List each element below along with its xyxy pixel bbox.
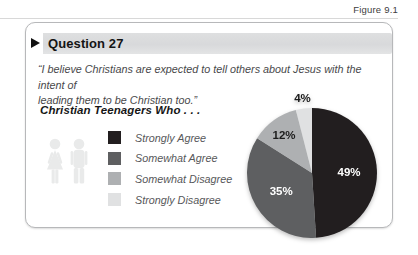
figure-label: Figure 9.1 [353,4,398,15]
legend-label: Somewhat Disagree [135,173,232,185]
legend-swatch [108,131,121,144]
bullet-arrow-icon [31,38,40,48]
pie-chart: 49%35%12%4% [230,86,396,252]
top-rule-divider [0,18,398,19]
legend-swatch [108,193,121,206]
pie-slice-label: 12% [273,129,296,141]
male-icon [71,139,88,184]
legend-row: Somewhat Disagree [108,172,232,185]
chart-subtitle: Christian Teenagers Who . . . [40,104,200,116]
header-bar: Question 27 [43,33,392,54]
legend-label: Strongly Disagree [135,194,221,206]
legend-swatch [108,152,121,165]
legend-row: Strongly Agree [108,131,232,144]
female-icon [47,139,63,184]
legend-swatch [108,172,121,185]
pie-slice-label: 35% [270,185,293,197]
figure-page: Figure 9.1 Question 27 “I believe Christ… [0,0,418,255]
legend-label: Strongly Agree [135,132,206,144]
pie-slice-label: 49% [337,166,360,178]
chart-legend: Strongly AgreeSomewhat AgreeSomewhat Dis… [108,131,232,214]
legend-row: Strongly Disagree [108,193,232,206]
legend-row: Somewhat Agree [108,152,232,165]
legend-label: Somewhat Agree [135,152,217,164]
pie-slice-label: 4% [294,92,311,104]
people-icons [42,138,94,190]
panel-title: Question 27 [43,33,392,54]
